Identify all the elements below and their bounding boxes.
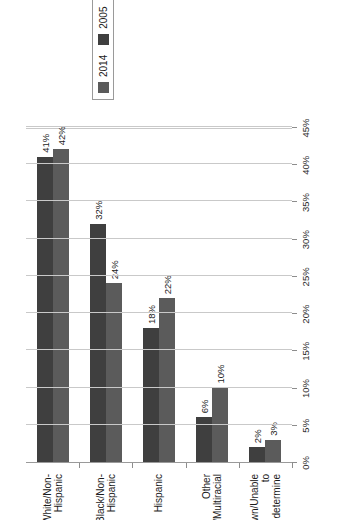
chart-legend: 20052014	[92, 0, 114, 100]
bar-2005	[249, 447, 265, 462]
bar-group: 2%3%	[239, 129, 292, 462]
axis-tick-label: 35%	[300, 193, 311, 212]
axis-tick	[292, 350, 297, 351]
axis-tick-label: 5%	[300, 419, 311, 433]
gridline	[26, 163, 292, 164]
bar-group: 41%42%	[26, 129, 79, 462]
bar-value-label: 10%	[216, 365, 226, 384]
axis-tick	[292, 388, 297, 389]
category-tick	[239, 463, 240, 468]
plot-area: 41%42%32%24%18%22%6%10%2%3%	[26, 128, 292, 463]
gridline	[26, 238, 292, 239]
bar-2014	[265, 440, 281, 462]
legend-label: 2005	[98, 7, 109, 29]
grouped-bar-chart: 41%42%32%24%18%22%6%10%2%3% 0%5%10%15%20…	[0, 0, 364, 520]
bar-2005	[143, 328, 159, 462]
axis-tick-label: 0%	[300, 456, 311, 470]
axis-tick	[292, 425, 297, 426]
bar-value-label: 2%	[253, 429, 263, 443]
axis-tick-label: 25%	[300, 267, 311, 286]
axis-tick-label: 45%	[300, 118, 311, 137]
bar-2005	[37, 157, 53, 462]
axis-tick-label: 20%	[300, 305, 311, 324]
bar-value-label: 24%	[110, 260, 120, 279]
axis-tick	[292, 201, 297, 202]
bar-group: 32%24%	[79, 129, 132, 462]
bar-groups: 41%42%32%24%18%22%6%10%2%3%	[26, 129, 292, 462]
axis-tick-label: 10%	[300, 379, 311, 398]
legend-item[interactable]: 2005	[98, 7, 109, 45]
legend-swatch-icon	[98, 34, 109, 45]
bar-value-label: 18%	[147, 305, 157, 324]
gridline	[26, 126, 292, 127]
gridline	[26, 424, 292, 425]
bar-value-label: 6%	[200, 400, 210, 414]
bar-group: 18%22%	[132, 129, 185, 462]
bar-2014	[212, 388, 228, 462]
category-tick	[186, 463, 187, 468]
axis-tick	[292, 164, 297, 165]
axis-tick	[292, 127, 297, 128]
axis-tick-label: 30%	[300, 230, 311, 249]
category-tick	[292, 463, 293, 468]
gridline	[26, 275, 292, 276]
bar-group: 6%10%	[186, 129, 239, 462]
category-label: Black/Non-Hispanic	[79, 470, 132, 520]
axis-tick-label: 40%	[300, 156, 311, 175]
bar-2014	[159, 298, 175, 462]
axis-tick-label: 15%	[300, 342, 311, 361]
legend-label: 2014	[98, 55, 109, 77]
bar-value-label: 41%	[41, 134, 51, 153]
gridline	[26, 387, 292, 388]
bar-value-label: 22%	[163, 275, 173, 294]
legend-item[interactable]: 2014	[98, 55, 109, 93]
axis-tick	[292, 239, 297, 240]
bar-value-label: 32%	[94, 201, 104, 220]
category-label: Hispanic	[132, 470, 185, 520]
category-tick	[79, 463, 80, 468]
gridline	[26, 349, 292, 350]
category-tick	[132, 463, 133, 468]
gridline	[26, 200, 292, 201]
gridline	[26, 312, 292, 313]
axis-tick	[292, 313, 297, 314]
bar-value-label: 42%	[57, 126, 67, 145]
legend-swatch-icon	[98, 82, 109, 93]
category-label: White/Non-Hispanic	[26, 470, 79, 520]
bar-2005	[90, 224, 106, 462]
bar-2014	[53, 149, 69, 462]
category-label: Other Races/Multiracial	[186, 470, 239, 520]
bar-2014	[106, 283, 122, 462]
rotated-chart-container: 41%42%32%24%18%22%6%10%2%3% 0%5%10%15%20…	[0, 0, 364, 520]
category-label: Unknown/Unable to determine	[239, 470, 292, 520]
axis-tick	[292, 276, 297, 277]
